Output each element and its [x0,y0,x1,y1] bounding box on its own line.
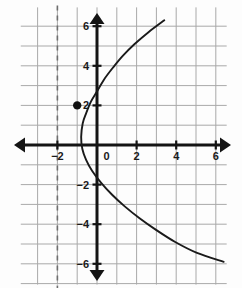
coordinate-graph: −20246642−2−4−6 [0,0,242,288]
marked-point [73,101,81,109]
y-tick-label: 2 [83,99,89,111]
x-tick-label: 2 [134,150,140,162]
y-tick-label: 4 [83,60,90,72]
graph-canvas: −20246642−2−4−6 [0,0,242,288]
y-tick-label: −4 [76,218,89,230]
x-tick-label: −2 [51,150,64,162]
origin-label: 0 [104,150,110,162]
y-tick-label: −6 [76,258,89,270]
y-tick-label: −2 [76,179,89,191]
y-tick-label: 6 [83,20,89,32]
x-tick-label: 6 [213,150,219,162]
plotted-point-marker [73,101,81,109]
x-tick-label: 4 [173,150,180,162]
